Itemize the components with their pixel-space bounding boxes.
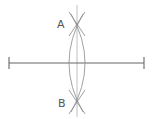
point-label-a: A (57, 19, 65, 30)
construction-diagram (0, 0, 159, 119)
point-label-b: B (58, 98, 66, 109)
